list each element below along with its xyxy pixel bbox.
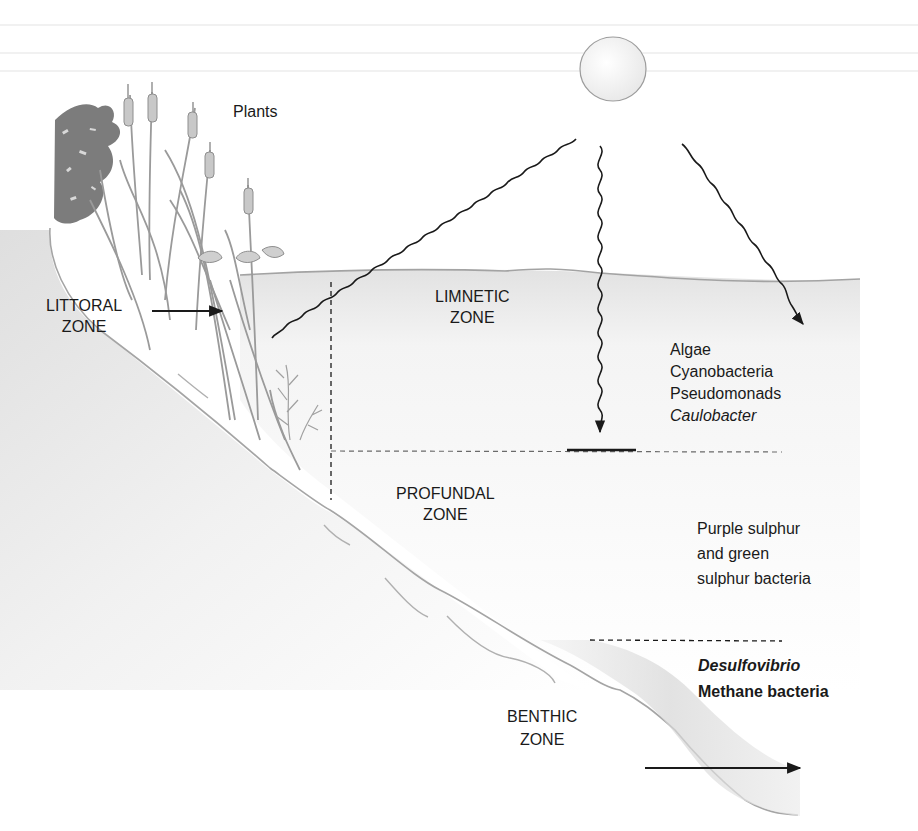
shrub-foliage: [54, 104, 120, 223]
littoral-zone-label: LITTORAL ZONE: [46, 295, 122, 337]
organism-desulfovibrio: Desulfovibrio: [698, 653, 829, 679]
limnetic-organisms-list: Algae Cyanobacteria Pseudomonads Cauloba…: [670, 339, 781, 427]
limnetic-zone-label: LIMNETIC ZONE: [435, 286, 510, 328]
organism-caulobacter: Caulobacter: [670, 405, 781, 427]
profundal-organisms-list: Purple sulphur and green sulphur bacteri…: [697, 516, 811, 591]
benthic-zone-label: BENTHIC ZONE: [507, 705, 577, 751]
limnetic-zone-label-line2: ZONE: [435, 307, 510, 328]
organism-cyanobacteria: Cyanobacteria: [670, 361, 781, 383]
organism-pseudomonads: Pseudomonads: [670, 383, 781, 405]
profundal-zone-label-line1: PROFUNDAL: [396, 483, 495, 504]
benthic-organisms-list: Desulfovibrio Methane bacteria: [698, 653, 829, 705]
littoral-zone-label-line1: LITTORAL: [46, 295, 122, 316]
organism-purple-sulphur: Purple sulphur: [697, 516, 811, 541]
organism-and-green: and green: [697, 541, 811, 566]
limnetic-zone-label-line1: LIMNETIC: [435, 286, 510, 307]
organism-methane-bacteria: Methane bacteria: [698, 679, 829, 705]
benthic-zone-label-line2: ZONE: [507, 728, 577, 751]
benthic-zone-label-line1: BENTHIC: [507, 705, 577, 728]
floating-leaves: [198, 247, 284, 263]
organism-sulphur-bacteria: sulphur bacteria: [697, 566, 811, 591]
organism-algae: Algae: [670, 339, 781, 361]
profundal-zone-label-line2: ZONE: [396, 504, 495, 525]
littoral-zone-label-line2: ZONE: [46, 316, 122, 337]
plants-label: Plants: [233, 101, 277, 122]
sun-icon: [580, 37, 646, 101]
profundal-zone-label: PROFUNDAL ZONE: [396, 483, 495, 525]
